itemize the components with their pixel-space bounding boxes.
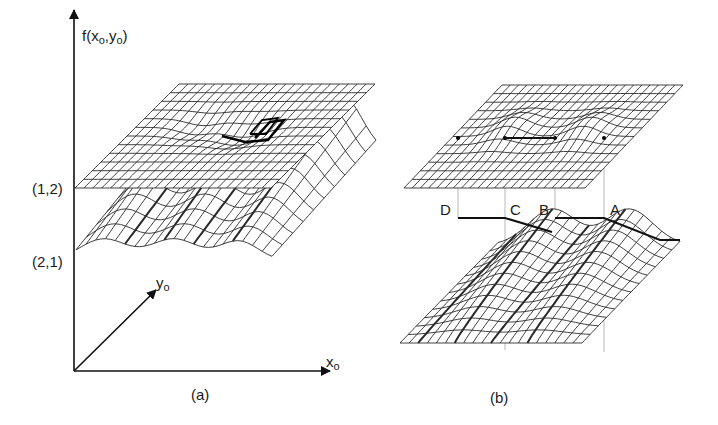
level-label-2-1: (2,1) xyxy=(32,254,63,269)
y-label-sub: o xyxy=(164,281,170,293)
point-label-a: A xyxy=(610,202,620,217)
upper-sheet-b xyxy=(404,85,683,188)
caption-b: (b) xyxy=(490,390,508,405)
x-label-base: x xyxy=(326,353,334,370)
caption-a: (a) xyxy=(191,387,209,402)
point-label-d: D xyxy=(440,202,451,217)
point-label-c: C xyxy=(510,202,521,217)
panel-b xyxy=(400,85,683,352)
z-label-mid: ,y xyxy=(105,27,117,44)
panel-a xyxy=(74,10,376,371)
z-label-close: ) xyxy=(123,27,128,44)
y-axis xyxy=(74,290,156,371)
x-axis-label: xo xyxy=(326,354,340,372)
z-axis-label: f(xo,yo) xyxy=(82,28,128,46)
point-label-b: B xyxy=(539,202,549,217)
y-axis-label: yo xyxy=(156,275,170,293)
marked-point xyxy=(456,136,460,140)
marked-point xyxy=(602,136,606,140)
level-label-1-2: (1,2) xyxy=(32,181,63,196)
lower-surface-b xyxy=(400,209,680,343)
z-label-fn: f(x xyxy=(82,27,99,44)
y-label-base: y xyxy=(156,274,164,291)
x-label-sub: o xyxy=(334,360,340,372)
